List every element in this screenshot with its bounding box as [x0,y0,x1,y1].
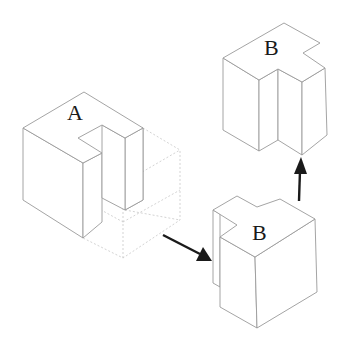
diagram-canvas: A B [0,0,347,345]
block-a: A [23,92,143,238]
block-b-bottom: B [213,196,317,328]
block-b-bottom-label: B [252,220,267,245]
block-b-top-label: B [264,35,279,60]
arrow-a-to-b [163,235,212,261]
block-a-label: A [67,100,83,125]
block-b-top: B [223,23,327,155]
arrow-b-up [294,157,307,201]
diagram-svg: A B [0,0,347,345]
